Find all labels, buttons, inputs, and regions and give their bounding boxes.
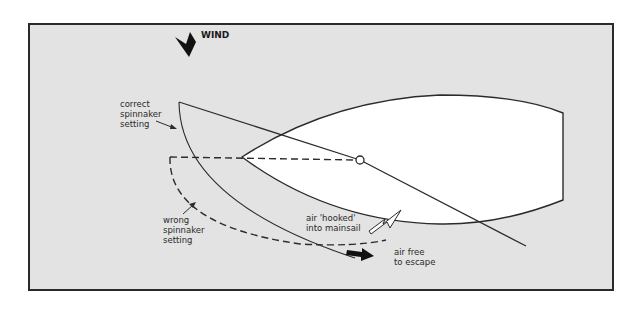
wind-label: WIND xyxy=(201,30,229,40)
correct-label-line-2: spinnaker xyxy=(120,109,162,119)
free-label-line-2: to escape xyxy=(394,257,435,267)
correct-label-line-3: setting xyxy=(120,119,149,129)
free-label-line-1: air free xyxy=(394,247,425,257)
correct-label-line-1: correct xyxy=(120,99,150,109)
wrong-label-line-1: wrong xyxy=(163,215,189,225)
hooked-label-line-1: air 'hooked' xyxy=(306,213,355,223)
mast-icon xyxy=(356,156,364,164)
wrong-label-line-3: setting xyxy=(163,235,192,245)
hooked-label-line-2: into mainsail xyxy=(306,223,361,233)
wrong-label-line-2: spinnaker xyxy=(163,225,205,235)
spinnaker-diagram: WIND correct spinnaker setting wrong spi… xyxy=(0,0,638,312)
